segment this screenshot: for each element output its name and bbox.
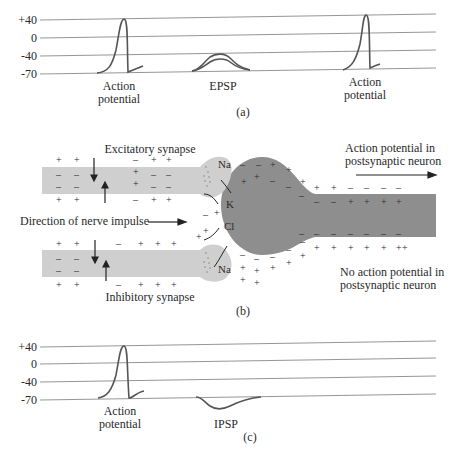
svg-text:+: + [364,242,370,253]
svg-text:–: – [150,169,157,180]
svg-text:+: + [155,238,161,249]
svg-text:+: + [74,194,80,205]
svg-text:+: + [166,154,172,165]
svg-text:–: – [363,228,370,239]
svg-text:+: + [74,238,80,249]
ap-label-line1: Action [104,404,137,418]
svg-text:+: + [241,176,247,187]
y-tick-minus40: -40 [21,49,37,63]
svg-text:+: + [203,225,209,236]
svg-text:+: + [270,262,276,273]
svg-text:–: – [165,181,172,192]
svg-text:+: + [348,196,354,207]
svg-text:–: – [313,196,320,207]
svg-text:–: – [115,279,122,290]
ap-label-line2: potential [99,417,142,431]
svg-text:–: – [380,228,387,239]
epsp-label: EPSP [209,79,237,93]
svg-text:–: – [73,181,80,192]
y-tick-minus70: -70 [21,393,37,407]
panel-b-caption: (b) [236,304,250,318]
svg-text:+: + [155,279,161,290]
svg-text:+: + [133,166,139,177]
y-tick-minus70: -70 [21,67,37,81]
y-tick-0: 0 [31,357,37,371]
panel-b-neuron: Excitatory synapse Inhibitory synapse Di… [20,141,444,318]
svg-text:–: – [202,209,209,220]
svg-text:–: – [395,228,402,239]
svg-text:+: + [56,279,62,290]
svg-text:+: + [151,194,157,205]
svg-text:+: + [171,279,177,290]
svg-text:–: – [73,265,80,276]
svg-text:–: – [115,238,122,249]
ion-na-bottom: Na [218,263,231,275]
svg-text:–: – [253,253,260,264]
panel-a-caption: (a) [236,105,249,119]
svg-text:+: + [240,274,246,285]
svg-text:+: + [138,279,144,290]
svg-text:+: + [166,194,172,205]
no-ap-line1: No action potential in [340,265,444,279]
ion-k: K [226,198,234,210]
svg-text:–: – [299,236,306,247]
svg-text:–: – [269,251,276,262]
svg-text:+: + [314,182,320,193]
svg-text:–: – [73,253,80,264]
svg-text:+: + [402,242,408,253]
svg-text:–: – [285,181,292,192]
svg-text:–: – [239,249,246,260]
svg-text:–: – [298,190,305,201]
action-potential-trace-2 [343,15,380,70]
svg-text:+: + [254,171,260,182]
ap1-label-line2: potential [98,92,141,106]
direction-label: Direction of nerve impulse [20,214,149,228]
svg-text:–: – [395,182,402,193]
svg-text:+: + [331,242,337,253]
ipsp-label: IPSP [214,417,238,431]
svg-text:+: + [240,262,246,273]
ion-cl: Cl [224,220,234,232]
svg-text:–: – [73,169,80,180]
svg-text:+: + [381,242,387,253]
y-tick-plus40: +40 [18,340,37,354]
y-tick-0: 0 [31,31,37,45]
svg-text:–: – [285,244,292,255]
svg-text:–: – [239,159,246,170]
svg-text:–: – [255,159,262,170]
svg-text:+: + [214,207,220,218]
svg-text:+: + [151,154,157,165]
svg-text:+: + [56,238,62,249]
ap-in-postsynaptic-line1: Action potential in [345,141,435,155]
svg-text:–: – [347,228,354,239]
svg-text:–: – [330,196,337,207]
svg-text:+: + [300,176,306,187]
svg-text:–: – [55,169,62,180]
svg-text:–: – [330,228,337,239]
synaptic-transmission-diagram: +40 0 -40 -70 Action potential EPSP Acti… [0,0,462,455]
svg-text:+: + [331,182,337,193]
svg-text:–: – [132,154,139,165]
ap2-label-line1: Action [349,75,382,89]
svg-text:+: + [133,178,139,189]
svg-text:+: + [286,257,292,268]
svg-text:+: + [196,231,202,242]
svg-text:+: + [300,250,306,261]
no-ap-line2: postsynaptic neuron [340,278,436,292]
excitatory-synapse-label: Excitatory synapse [105,142,196,156]
svg-text:+: + [254,265,260,276]
svg-text:–: – [380,182,387,193]
action-potential-trace-1 [97,19,143,73]
ap1-label-line1: Action [103,79,136,93]
svg-text:–: – [55,181,62,192]
svg-text:–: – [363,182,370,193]
svg-text:–: – [55,265,62,276]
svg-text:–: – [269,175,276,186]
inhibitory-synapse-label: Inhibitory synapse [106,290,195,304]
ipsp-trace [196,397,261,409]
svg-text:+: + [286,164,292,175]
panel-c-gridlines [40,341,436,400]
svg-text:+: + [74,154,80,165]
svg-text:–: – [55,253,62,264]
svg-text:–: – [165,169,172,180]
